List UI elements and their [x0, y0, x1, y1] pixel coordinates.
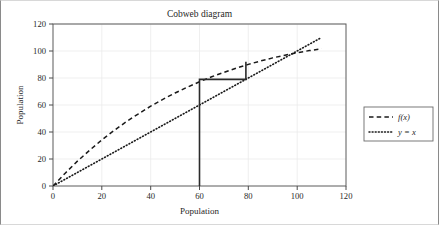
- series-cobweb-path: [200, 62, 246, 186]
- y-tick-label-40: 40: [37, 127, 46, 137]
- y-tick-label-20: 20: [37, 154, 46, 164]
- x-tick-label-100: 100: [291, 191, 304, 201]
- y-axis-title: Population: [15, 85, 25, 125]
- x-tick-label-40: 40: [146, 191, 155, 201]
- y-axis-ticks: [49, 24, 53, 186]
- figure-container: Cobweb diagram 0 20 40 60 80 100 120 0 2…: [0, 0, 439, 225]
- x-axis-title: Population: [180, 206, 220, 216]
- x-tick-label-60: 60: [195, 191, 204, 201]
- x-tick-label-120: 120: [340, 191, 353, 201]
- y-tick-label-0: 0: [42, 181, 46, 191]
- x-axis-ticks: [53, 186, 346, 190]
- chart-legend: f(x) y = x: [364, 107, 433, 141]
- y-tick-label-120: 120: [33, 19, 46, 29]
- x-tick-label-20: 20: [98, 191, 107, 201]
- y-tick-label-60: 60: [37, 100, 46, 110]
- x-tick-label-80: 80: [244, 191, 253, 201]
- series-identity-line: [53, 38, 322, 187]
- legend-label-fx: f(x): [398, 112, 410, 122]
- legend-label-identity: y = x: [397, 127, 416, 137]
- x-tick-label-0: 0: [51, 191, 55, 201]
- y-tick-label-80: 80: [37, 73, 46, 83]
- y-tick-label-100: 100: [33, 46, 46, 56]
- series-fx-curve: [53, 49, 322, 186]
- chart-title: Cobweb diagram: [167, 9, 233, 19]
- cobweb-chart: Cobweb diagram 0 20 40 60 80 100 120 0 2…: [1, 1, 439, 225]
